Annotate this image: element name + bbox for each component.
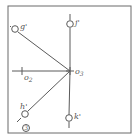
label-g: g' [20,22,27,31]
tick-g [10,26,11,27]
link-k-o3 [69,71,70,115]
label-o2: o2 [24,73,33,83]
tick-h [17,118,21,122]
label-o3-sub: 3 [80,70,84,77]
link-h-o3 [28,71,70,111]
pivot-j-icon [67,21,74,28]
label-j: j' [73,18,80,27]
label-k: k' [74,112,81,121]
label-o2-sub: 2 [28,76,33,83]
link-g-o3 [18,32,70,71]
label-h: h' [20,102,27,111]
pivot-h-icon [22,111,29,118]
pivot-g-icon [12,26,19,33]
pivot-k-icon [66,115,73,122]
label-o3: o3 [75,67,84,77]
diagram-canvas: g' j' h' k' o3 o2 3 [0,0,139,140]
figure-number: 3 [24,124,28,131]
